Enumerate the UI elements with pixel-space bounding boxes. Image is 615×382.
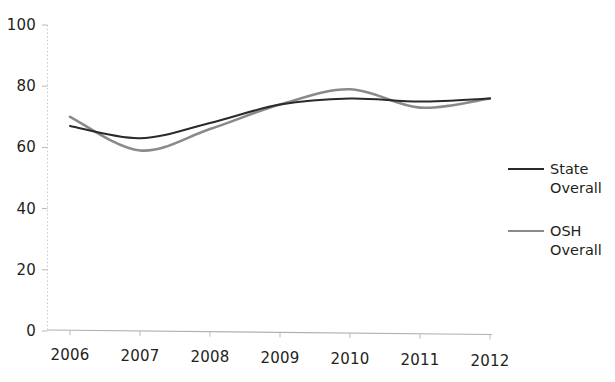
line-chart: 100 80 60 40 20 0 2006 2007 2008 2009 20… <box>0 0 615 382</box>
y-axis-ticks <box>42 25 48 331</box>
x-tick-label-2007: 2007 <box>112 347 168 365</box>
y-tick-label-100: 100 <box>0 16 36 34</box>
x-tick-label-2009: 2009 <box>252 349 308 367</box>
legend: State Overall OSH Overall <box>508 160 612 284</box>
y-tick-label-60: 60 <box>0 138 36 156</box>
y-tick-label-40: 40 <box>0 200 36 218</box>
x-axis-line <box>48 330 493 335</box>
series-line-state-overall <box>70 89 490 150</box>
x-tick-label-2006: 2006 <box>42 346 98 364</box>
y-tick-label-20: 20 <box>0 261 36 279</box>
legend-swatch-state-overall <box>508 168 544 170</box>
legend-label-osh-overall: OSH Overall <box>550 222 615 260</box>
legend-entry-osh-overall: OSH Overall <box>508 222 612 266</box>
y-tick-label-80: 80 <box>0 77 36 95</box>
series-line-osh-overall <box>70 98 490 138</box>
x-tick-label-2010: 2010 <box>322 350 378 368</box>
x-tick-label-2011: 2011 <box>392 351 448 369</box>
y-tick-label-0: 0 <box>0 322 36 340</box>
x-tick-label-2012: 2012 <box>462 352 518 370</box>
legend-label-state-overall: State Overall <box>550 160 615 198</box>
x-axis-ticks <box>70 330 490 339</box>
x-tick-label-2008: 2008 <box>182 348 238 366</box>
legend-swatch-osh-overall <box>508 230 544 232</box>
legend-entry-state-overall: State Overall <box>508 160 612 204</box>
